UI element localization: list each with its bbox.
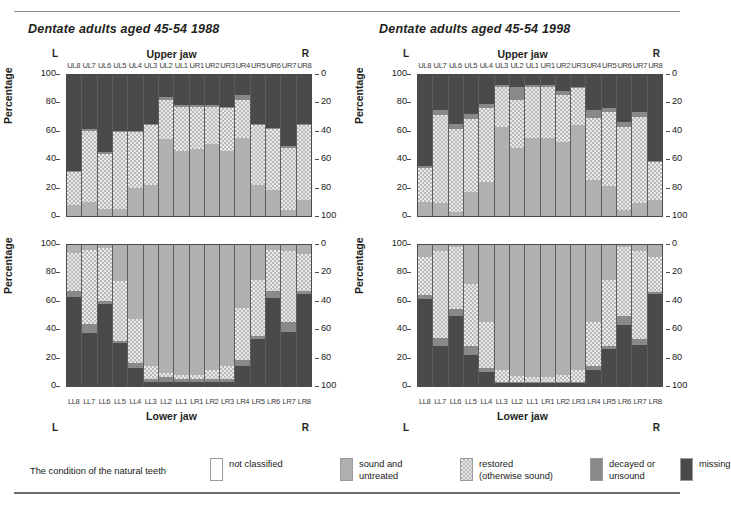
y-axis-tick-label: 40 [397,155,407,164]
chart-upper-jaw-1988: Upper jawLRUL8UL7UL6UL5UL4UL3UL2UL1UR1UR… [28,48,315,224]
bar-column[interactable] [556,244,571,386]
bar-segment-restored [586,322,600,366]
bar-column[interactable] [67,244,82,386]
bar-segment-missing [541,74,555,85]
bar-column[interactable] [205,74,220,216]
bar-column[interactable] [205,244,220,386]
bar-column[interactable] [495,74,510,216]
bar-column[interactable] [433,74,448,216]
bar-column[interactable] [433,244,448,386]
tooth-label: UR7 [281,61,296,70]
bar-column[interactable] [113,244,128,386]
bar-column[interactable] [648,74,662,216]
legend-item[interactable]: decayed or unsound [590,458,655,482]
bar-segment-sound [82,202,96,216]
bar-column[interactable] [495,244,510,386]
bar-column[interactable] [510,74,525,216]
bar-column[interactable] [617,244,632,386]
bar-column[interactable] [571,244,586,386]
panel-title-left: Dentate adults aged 45-54 1988 [28,22,220,36]
bar-column[interactable] [586,74,601,216]
y-axis-tick-label: 60 [46,126,56,135]
bar-column[interactable] [251,244,266,386]
bar-column[interactable] [602,74,617,216]
bar-column[interactable] [525,244,540,386]
bar-column[interactable] [235,74,250,216]
bar-column[interactable] [220,244,235,386]
bar-column[interactable] [82,74,97,216]
bar-column[interactable] [251,74,266,216]
legend-swatch-notclassified [210,458,223,481]
bar-column[interactable] [144,244,159,386]
bar-segment-missing [510,74,524,87]
bar-column[interactable] [159,74,174,216]
legend-item[interactable]: restored (otherwise sound) [460,458,553,482]
tooth-label: UR8 [648,61,663,70]
bar-column[interactable] [464,244,479,386]
bar-column[interactable] [464,74,479,216]
bar-column[interactable] [235,244,250,386]
bar-column[interactable] [541,244,556,386]
bar-segment-missing [556,74,570,91]
bar-segment-missing [297,294,311,386]
bar-column[interactable] [648,244,662,386]
bar-column[interactable] [266,74,281,216]
tooth-label: UR2 [555,61,570,70]
y-axis-tick-label: 0 [321,239,326,248]
bar-column[interactable] [479,244,494,386]
bar-column[interactable] [190,74,205,216]
bar-column[interactable] [266,244,281,386]
tooth-label: UR2 [204,61,219,70]
bar-column[interactable] [571,74,586,216]
legend-label: sound and untreated [359,458,402,482]
bar-column[interactable] [449,74,464,216]
tooth-label: LR7 [632,397,647,406]
bar-column[interactable] [449,244,464,386]
bar-column[interactable] [418,244,433,386]
plot-area: 100806040200020406080100Percentage [379,74,666,224]
bar-column[interactable] [128,244,143,386]
bar-column[interactable] [297,74,311,216]
tooth-label: LL2 [509,397,524,406]
legend-label: decayed or unsound [609,458,655,482]
bar-column[interactable] [541,74,556,216]
bar-column[interactable] [190,244,205,386]
bar-column[interactable] [67,74,82,216]
legend-item[interactable]: missing [680,458,731,481]
bar-column[interactable] [174,74,189,216]
bar-column[interactable] [128,74,143,216]
bar-column[interactable] [617,74,632,216]
bar-column[interactable] [602,244,617,386]
legend-item[interactable]: not classified [210,458,283,481]
bar-column[interactable] [281,244,296,386]
bar-column[interactable] [297,244,311,386]
legend-item[interactable]: sound and untreated [340,458,402,482]
bar-column[interactable] [632,74,647,216]
bar-segment-sound [510,244,524,376]
bar-column[interactable] [510,244,525,386]
bar-column[interactable] [98,244,113,386]
bar-segment-sound [174,244,188,375]
bar-segment-restored [617,247,631,317]
y-axis-tick-label: 40 [672,296,682,305]
bar-segment-sound [556,142,570,216]
bar-segment-missing [464,355,478,386]
bar-column[interactable] [98,74,113,216]
bar-column[interactable] [159,244,174,386]
bar-column[interactable] [174,244,189,386]
bar-column[interactable] [220,74,235,216]
bar-column[interactable] [418,74,433,216]
bar-column[interactable] [632,244,647,386]
bar-column[interactable] [82,244,97,386]
y-axis-tick-label: 20 [672,98,682,107]
bar-segment-sound [541,138,555,216]
bar-column[interactable] [586,244,601,386]
bar-column[interactable] [556,74,571,216]
bar-segment-decayed [82,324,96,334]
bar-column[interactable] [144,74,159,216]
bar-segment-restored [266,129,280,190]
bar-column[interactable] [281,74,296,216]
bar-column[interactable] [113,74,128,216]
bar-column[interactable] [479,74,494,216]
bar-column[interactable] [525,74,540,216]
